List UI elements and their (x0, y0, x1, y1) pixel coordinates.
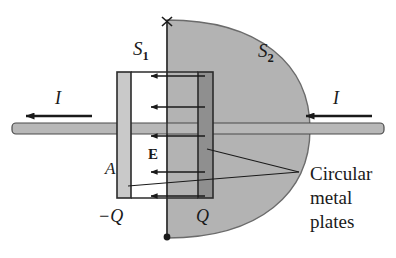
label-s2-subscript: 2 (268, 51, 274, 65)
callout-line-1: Circular (310, 163, 373, 184)
label-charge-negative: −Q (98, 206, 123, 226)
label-s1: S1 (133, 38, 149, 63)
label-electric-field: E (148, 146, 158, 162)
label-area-a: A (104, 159, 116, 178)
label-current-right: I (332, 88, 340, 108)
label-s2-base: S (258, 40, 268, 61)
label-current-left: I (54, 88, 62, 108)
plate-left-body (117, 72, 131, 198)
s1-bottom-dot-marker (164, 234, 171, 241)
callout-line-2: metal (310, 187, 352, 208)
label-s1-base: S (133, 38, 143, 59)
capacitor-displacement-current-diagram: S1 S2 I I E A −Q Q Circular metal plates (0, 0, 396, 258)
callout-line-3: plates (310, 211, 354, 232)
label-charge-positive: Q (196, 206, 209, 226)
label-s1-subscript: 1 (143, 49, 149, 63)
plate-left (117, 72, 131, 198)
